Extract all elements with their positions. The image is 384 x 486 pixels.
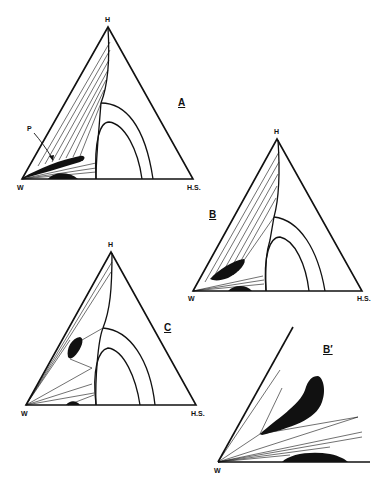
vertex-label-w: W [188, 295, 195, 302]
panel-label-a: A [178, 97, 185, 108]
panel-b-prime [218, 327, 370, 462]
vertex-label-w: W [17, 184, 24, 191]
vertex-label-hs: H.S. [191, 410, 205, 417]
panel-b [193, 139, 362, 291]
panel-label-c: C [164, 322, 171, 333]
vertex-label-w: W [214, 467, 221, 474]
vertex-label-w: W [21, 410, 28, 417]
ternary-phase-diagrams: H W H.S. P A H W H.S. B [0, 0, 384, 486]
panel-label-b-prime: B′ [323, 344, 333, 355]
phase-region-blob [260, 376, 324, 435]
panel-label-b: B [209, 209, 216, 220]
vertex-label-h: H [105, 16, 110, 23]
annotation-p: P [27, 125, 32, 132]
vertex-label-h: H [274, 128, 279, 135]
vertex-label-hs: H.S. [187, 184, 201, 191]
vertex-label-h: H [108, 241, 113, 248]
panel-a [22, 27, 193, 179]
vertex-label-hs: H.S. [357, 295, 371, 302]
